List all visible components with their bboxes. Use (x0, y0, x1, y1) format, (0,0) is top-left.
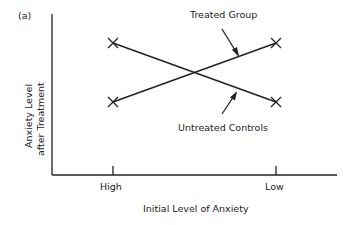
x-marker-icon (271, 38, 281, 48)
panel-label: (a) (18, 10, 31, 21)
untreated-controls-label: Untreated Controls (178, 122, 268, 133)
x-marker-icon (108, 97, 118, 107)
y-axis-label-line2: after Treatment (35, 82, 46, 156)
y-axis-label: Anxiety Level after Treatment (8, 60, 44, 160)
x-axis-label: Initial Level of Anxiety (143, 203, 249, 214)
y-axis-label-line1: Anxiety Level (23, 84, 34, 148)
treated-group-label: Treated Group (190, 9, 257, 20)
x-tick-label-high: High (100, 181, 122, 192)
untreated-pointer-arrow-icon (222, 93, 236, 114)
x-marker-icon (271, 97, 281, 107)
diagram-canvas (0, 0, 352, 225)
treated-pointer-arrow-icon (222, 29, 238, 55)
x-tick-label-low: Low (265, 181, 284, 192)
x-marker-icon (108, 38, 118, 48)
